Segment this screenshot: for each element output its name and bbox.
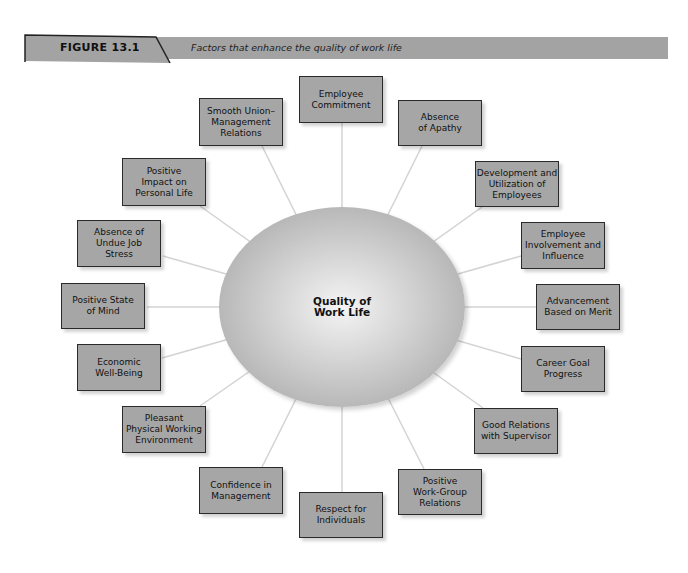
factor-employee-involvement: Employee Involvement and Influence bbox=[521, 222, 605, 269]
factor-label: Smooth Union– Management Relations bbox=[207, 106, 275, 139]
factor-label: Development and Utilization of Employees bbox=[477, 168, 557, 201]
factor-confidence-in-management: Confidence in Management bbox=[199, 467, 283, 514]
factor-pleasant-physical-environment: Pleasant Physical Working Environment bbox=[122, 406, 206, 453]
factor-label: Pleasant Physical Working Environment bbox=[126, 413, 202, 446]
factor-label: Economic Well-Being bbox=[95, 357, 142, 379]
factor-label: Respect for Individuals bbox=[315, 504, 366, 526]
factor-development-utilization: Development and Utilization of Employees bbox=[475, 161, 559, 207]
factor-good-relations-supervisor: Good Relations with Supervisor bbox=[474, 408, 558, 454]
factor-label: Absence of Apathy bbox=[418, 112, 461, 134]
factor-label: Absence of Undue Job Stress bbox=[94, 227, 144, 260]
factor-label: Positive Work-Group Relations bbox=[413, 476, 467, 509]
quality-of-work-life-hub: Quality of Work Life bbox=[219, 207, 465, 407]
factor-label: Career Goal Progress bbox=[536, 358, 589, 380]
factor-absence-of-apathy: Absence of Apathy bbox=[398, 100, 482, 146]
factor-label: Employee Involvement and Influence bbox=[525, 229, 601, 262]
factor-economic-well-being: Economic Well-Being bbox=[77, 344, 161, 391]
factor-label: Good Relations with Supervisor bbox=[481, 420, 551, 442]
factor-label: Positive State of Mind bbox=[72, 295, 133, 317]
factor-positive-impact-personal-life: Positive Impact on Personal Life bbox=[122, 158, 206, 206]
factor-label: Employee Commitment bbox=[312, 89, 371, 111]
factor-absence-undue-job-stress: Absence of Undue Job Stress bbox=[77, 220, 161, 267]
factor-advancement-merit: Advancement Based on Merit bbox=[536, 284, 620, 330]
factor-respect-for-individuals: Respect for Individuals bbox=[299, 492, 383, 538]
hub-label: Quality of Work Life bbox=[313, 296, 371, 318]
factor-smooth-union-management: Smooth Union– Management Relations bbox=[199, 98, 283, 146]
factor-label: Positive Impact on Personal Life bbox=[135, 166, 192, 199]
factor-label: Advancement Based on Merit bbox=[544, 296, 612, 318]
factor-label: Confidence in Management bbox=[210, 480, 272, 502]
factor-career-goal-progress: Career Goal Progress bbox=[521, 346, 605, 392]
factor-positive-work-group-relations: Positive Work-Group Relations bbox=[398, 469, 482, 515]
factor-positive-state-of-mind: Positive State of Mind bbox=[61, 283, 145, 329]
factor-employee-commitment: Employee Commitment bbox=[299, 76, 383, 123]
